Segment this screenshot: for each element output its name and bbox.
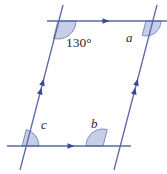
angle-label-c: c bbox=[41, 117, 47, 132]
direction-arrow-icon bbox=[131, 87, 137, 95]
angle-label-a: a bbox=[126, 30, 133, 45]
direction-arrow-icon bbox=[67, 143, 74, 149]
geometry-figure: 130° a b c bbox=[0, 0, 167, 174]
angle-label-130: 130° bbox=[66, 35, 92, 50]
angle-labels-group: 130° a b c bbox=[41, 30, 133, 132]
direction-arrow-icon bbox=[133, 79, 139, 87]
direction-arrow-icon bbox=[39, 79, 45, 87]
direction-arrow-icon bbox=[102, 18, 109, 24]
direction-arrow-icon bbox=[37, 87, 43, 95]
angle-arc-bottom-right bbox=[86, 129, 107, 146]
geometry-diagram: 130° a b c bbox=[0, 0, 167, 174]
angle-label-b: b bbox=[91, 116, 98, 131]
